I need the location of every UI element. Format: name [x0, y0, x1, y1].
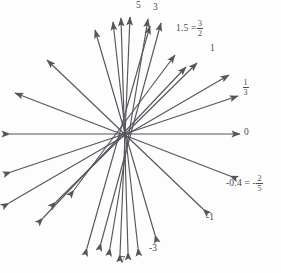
label-slope-1-3: 13: [242, 79, 249, 97]
slope-line-canvas: [0, 0, 281, 273]
fraction-1-over-3: 13: [243, 79, 249, 97]
label-slope-3: 3: [153, 3, 158, 13]
label-slope-neg-0-4: -0.4 = -25: [226, 175, 263, 193]
fraction-3-over-2: 32: [197, 20, 203, 38]
label-slope-neg-7: -7: [117, 256, 125, 266]
ray-unlabeled-left-down: [9, 75, 229, 203]
fraction-denominator: 5: [256, 184, 262, 193]
label-slope-neg-0-4-text: -0.4 = -: [226, 179, 256, 189]
ray-unlabeled-steep-a: [87, 26, 150, 248]
fraction-denominator: 3: [243, 88, 249, 97]
label-slope-0: 0: [244, 128, 249, 138]
label-slope-neg-3: -3: [149, 244, 157, 254]
slope-diagram: 5 3 1.5 =32 1 13 0 -0.4 = -25 -1 -3 -7: [0, 0, 281, 273]
fraction-2-over-5: 25: [256, 175, 262, 193]
fraction-denominator: 2: [197, 29, 203, 38]
label-slope-1-5: 1.5 =32: [176, 20, 204, 38]
ray-slope-3: [101, 23, 161, 243]
fraction-numerator: 1: [243, 79, 249, 88]
fraction-numerator: 2: [256, 175, 262, 184]
label-slope-neg-1: -1: [206, 213, 214, 223]
label-slope-5: 5: [136, 1, 141, 11]
label-slope-1-5-text: 1.5 =: [176, 24, 197, 34]
fraction-numerator: 3: [197, 20, 203, 29]
label-slope-1: 1: [210, 44, 215, 54]
